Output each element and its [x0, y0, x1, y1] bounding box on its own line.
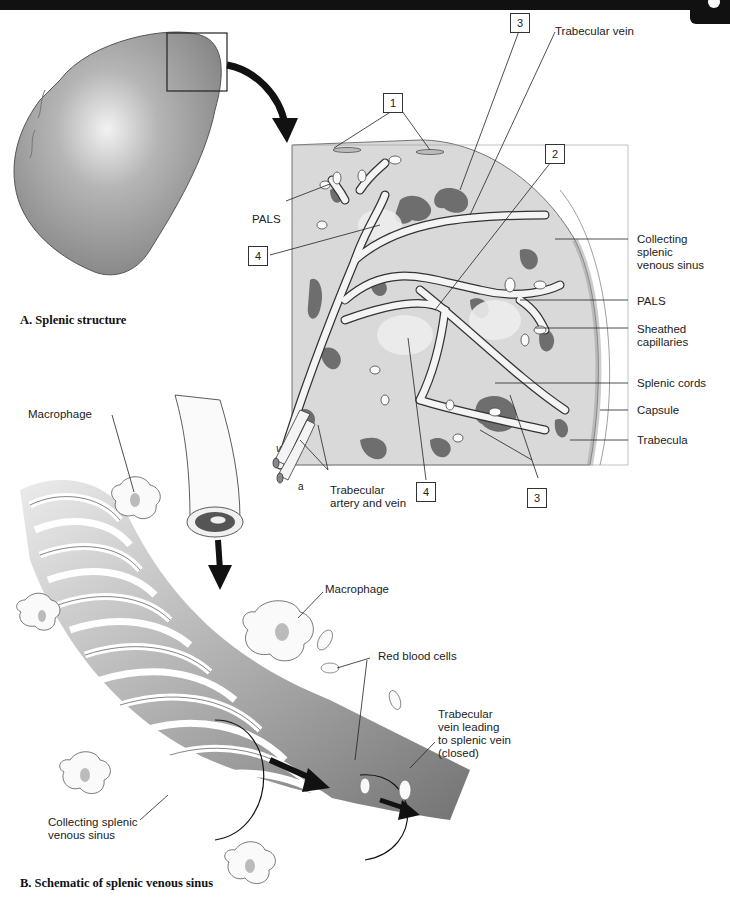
histology-section	[273, 140, 628, 483]
number-box-4-left: 4	[248, 246, 268, 266]
label-trab-vein-4: (closed)	[438, 747, 479, 760]
label-collecting-sinus-b-1: Collecting splenic	[48, 816, 138, 829]
caption-panel-a: A. Splenic structure	[20, 313, 126, 328]
label-capsule: Capsule	[637, 404, 679, 417]
label-collecting-sinus-b-2: venous sinus	[48, 829, 115, 842]
number-box-4-bottom: 4	[416, 482, 436, 502]
label-red-blood-cells: Red blood cells	[378, 650, 457, 663]
label-sheathed-2: capillaries	[637, 336, 688, 349]
label-a: a	[298, 480, 304, 493]
label-collecting-sinus-1: Collecting	[637, 233, 688, 246]
caption-panel-b: B. Schematic of splenic venous sinus	[20, 876, 213, 891]
label-trab-vein-3: to splenic vein	[438, 734, 511, 747]
label-trab-vein-1: Trabecular	[438, 708, 493, 721]
number-box-3-bottom: 3	[527, 488, 547, 508]
label-collecting-sinus-2: splenic	[637, 246, 673, 259]
number-box-1: 1	[383, 93, 403, 113]
label-splenic-cords: Splenic cords	[637, 377, 706, 390]
label-trab-vein-2: vein leading	[438, 721, 499, 734]
label-macrophage-right: Macrophage	[325, 583, 389, 596]
label-macrophage-left: Macrophage	[28, 408, 92, 421]
number-box-2: 2	[545, 144, 565, 164]
label-v: v	[276, 442, 281, 455]
label-collecting-sinus-3: venous sinus	[637, 259, 704, 272]
label-trab-artery-vein-1: Trabecular	[330, 484, 385, 497]
label-trabecular-vein: Trabecular vein	[555, 25, 634, 38]
label-pals-left: PALS	[252, 213, 281, 226]
label-trabecula: Trabecula	[637, 434, 688, 447]
venous-sinus-schematic	[17, 395, 470, 884]
zoom-arrow	[227, 65, 285, 125]
spleen-organ	[14, 32, 221, 275]
label-pals-right: PALS	[637, 295, 666, 308]
label-sheathed-1: Sheathed	[637, 323, 686, 336]
label-trab-artery-vein-2: artery and vein	[330, 497, 406, 510]
number-box-3-top: 3	[510, 13, 530, 33]
illustration-canvas	[0, 0, 730, 911]
